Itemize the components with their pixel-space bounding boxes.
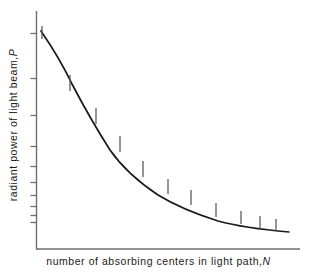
chart-plot-area xyxy=(0,0,317,273)
y-axis-label-text: radiant power of light beam, xyxy=(7,56,19,201)
y-axis-label-symbol: P xyxy=(7,48,19,56)
axes-group xyxy=(36,11,300,250)
y-axis-ticks xyxy=(31,34,37,223)
decay-curve xyxy=(41,31,289,232)
data-point-markers xyxy=(42,26,276,231)
x-axis-label-symbol: N xyxy=(263,255,271,267)
y-axis-label-container: radiant power of light beam,P xyxy=(0,0,26,249)
x-axis-label: number of absorbing centers in light pat… xyxy=(0,255,317,267)
figure-container: radiant power of light beam,P number of … xyxy=(0,0,317,273)
y-axis-label: radiant power of light beam,P xyxy=(7,48,19,201)
x-axis-label-text: number of absorbing centers in light pat… xyxy=(46,255,262,267)
